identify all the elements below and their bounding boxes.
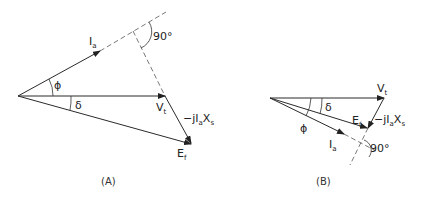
current-label-a: Ia <box>89 35 97 50</box>
caption-b: (B) <box>316 176 331 187</box>
drop-extension-dashed-b <box>350 128 368 165</box>
reactance-drop-label-a: −jIaXs <box>183 112 214 127</box>
phi-label-b: ϕ <box>300 122 307 135</box>
phasor-diagrams: Ia ϕ δ 90° Vt −jIaXs Ef (A) Vt δ Ef −jIa… <box>0 0 424 198</box>
phi-arc-b <box>306 98 311 116</box>
emf-label-b: Ef <box>352 114 362 129</box>
delta-arc-b <box>320 98 322 114</box>
phi-label-a: ϕ <box>54 79 61 92</box>
terminal-voltage-label-b: Vt <box>377 82 388 97</box>
emf-phasor-a <box>18 96 191 144</box>
caption-a: (A) <box>101 176 116 187</box>
right-angle-label-b: 90° <box>370 142 390 155</box>
emf-label-a: Ef <box>177 147 187 162</box>
delta-label-a: δ <box>75 99 82 112</box>
diagram-a: Ia ϕ δ 90° Vt −jIaXs Ef (A) <box>18 12 214 187</box>
delta-arc-a <box>70 96 71 110</box>
delta-label-b: δ <box>325 101 332 114</box>
diagram-b: Vt δ Ef −jIaXs ϕ Ia 90° (B) <box>270 82 405 187</box>
current-label-b: Ia <box>329 138 337 153</box>
terminal-voltage-label-a: Vt <box>156 101 167 116</box>
right-angle-label-a: 90° <box>153 30 173 43</box>
phi-arc-a <box>49 79 53 96</box>
reactance-drop-label-b: −jIaXs <box>374 113 405 128</box>
